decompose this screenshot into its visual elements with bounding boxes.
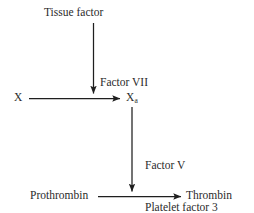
node-prothrombin-label: Prothrombin [30,189,88,201]
node-tissue-factor: Tissue factor [44,6,103,19]
node-tissue-factor-label: Tissue factor [44,6,103,18]
edge-label-factor-v-platelet-factor-3: Factor V Platelet factor 3 [145,130,218,213]
edge-label-factor-v-line1: Factor V [145,158,218,172]
coagulation-cascade-diagram: Tissue factor X Xa Prothrombin Thrombin … [0,0,254,213]
node-prothrombin: Prothrombin [30,189,88,202]
node-factor-x-label: X [14,91,22,103]
edge-label-factor-vii: Factor VII [100,47,148,117]
edge-label-platelet-factor-3-line2: Platelet factor 3 [145,200,218,213]
node-factor-x: X [14,91,22,104]
edge-label-factor-vii-line1: Factor VII [100,75,148,89]
